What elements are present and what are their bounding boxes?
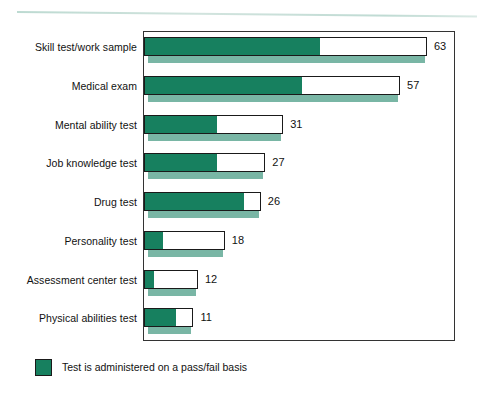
bar-value-label: 12 <box>205 272 217 286</box>
bar-category-label: Medical exam <box>0 80 137 92</box>
bar <box>144 308 193 327</box>
bar-shadow <box>148 172 263 179</box>
bar-shadow <box>148 289 196 296</box>
bar-value-label: 11 <box>200 310 211 324</box>
bar-category-label: Skill test/work sample <box>0 41 137 53</box>
bar-shadow <box>148 211 259 218</box>
bar <box>144 231 225 250</box>
bar-category-label: Personality test <box>0 235 137 247</box>
bar-category-label: Job knowledge test <box>0 157 137 169</box>
bar <box>144 192 261 211</box>
bar-segment-pass-fail <box>145 309 176 326</box>
chart-bar-row: Mental ability test31 <box>0 111 477 149</box>
bar-value-label: 26 <box>268 194 280 208</box>
bar <box>144 270 198 289</box>
bar-shadow <box>148 327 191 334</box>
chart-bar-row: Medical exam57 <box>0 72 477 110</box>
bar-shadow <box>148 95 398 102</box>
bar-value-label: 18 <box>232 233 244 247</box>
bar-segment-pass-fail <box>145 232 163 249</box>
legend-label-pass-fail: Test is administered on a pass/fail basi… <box>62 361 247 374</box>
bar-value-label: 57 <box>407 78 419 92</box>
bar-segment-pass-fail <box>145 193 244 210</box>
chart-bar-row: Personality test18 <box>0 227 477 265</box>
top-divider-rule <box>17 11 477 17</box>
bar-shadow <box>148 134 281 141</box>
bar <box>144 115 283 134</box>
bar-segment-pass-fail <box>145 38 320 55</box>
chart-bar-row: Drug test26 <box>0 188 477 226</box>
bar-shadow <box>148 56 425 63</box>
bar <box>144 37 427 56</box>
bar-category-label: Assessment center test <box>0 274 137 286</box>
bar-segment-pass-fail <box>145 77 302 94</box>
bar-segment-pass-fail <box>145 271 154 288</box>
bar-value-label: 27 <box>272 155 284 169</box>
chart-bar-row: Physical abilities test11 <box>0 304 477 342</box>
bar-segment-pass-fail <box>145 154 217 171</box>
bar-category-label: Mental ability test <box>0 119 137 131</box>
chart-bar-row: Skill test/work sample63 <box>0 33 477 71</box>
chart-bar-row: Job knowledge test27 <box>0 149 477 187</box>
bar-value-label: 31 <box>290 117 302 131</box>
legend-swatch-pass-fail <box>35 359 52 376</box>
chart-bar-row: Assessment center test12 <box>0 266 477 304</box>
bar-category-label: Drug test <box>0 196 137 208</box>
bar-category-label: Physical abilities test <box>0 312 137 324</box>
bar-rows-container: Skill test/work sample63Medical exam57Me… <box>0 31 477 341</box>
bar-value-label: 63 <box>434 39 446 53</box>
chart-legend: Test is administered on a pass/fail basi… <box>35 359 247 376</box>
bar-shadow <box>148 250 223 257</box>
bar <box>144 153 265 172</box>
bar <box>144 76 400 95</box>
bar-segment-pass-fail <box>145 116 217 133</box>
